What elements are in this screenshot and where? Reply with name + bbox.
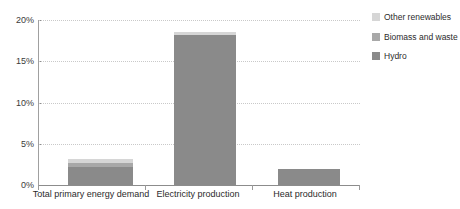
legend-label: Hydro bbox=[384, 52, 407, 61]
x-axis-label-total-primary-energy-demand: Total primary energy demand bbox=[33, 189, 150, 199]
x-axis-label-heat-production: Heat production bbox=[273, 189, 337, 199]
legend-item-hydro[interactable]: Hydro bbox=[372, 52, 460, 61]
y-tick-label: 5% bbox=[2, 139, 34, 149]
bar-electricity-production[interactable] bbox=[174, 32, 236, 185]
x-axis-label-electricity-production: Electricity production bbox=[156, 189, 239, 199]
legend-swatch-icon bbox=[372, 13, 380, 21]
x-axis-separator bbox=[252, 185, 253, 190]
y-tick-label: 0% bbox=[2, 180, 34, 190]
chart-legend: Other renewables Biomass and waste Hydro bbox=[372, 13, 460, 72]
legend-label: Other renewables bbox=[384, 13, 451, 22]
bar-heat-production[interactable] bbox=[278, 169, 340, 185]
legend-label: Biomass and waste bbox=[384, 33, 458, 42]
chart-container: 20% 15% 10% 5% 0% bbox=[0, 0, 460, 209]
bar-segment-hydro bbox=[68, 167, 133, 185]
legend-item-other-renewables[interactable]: Other renewables bbox=[372, 13, 460, 22]
legend-swatch-icon bbox=[372, 33, 380, 41]
y-tick-label: 20% bbox=[2, 15, 34, 25]
x-axis-separator bbox=[359, 185, 360, 190]
gridline bbox=[38, 20, 360, 21]
bar-segment-hydro bbox=[278, 169, 340, 185]
bar-total-primary-energy-demand[interactable] bbox=[68, 159, 133, 185]
x-axis-line bbox=[38, 185, 360, 186]
legend-swatch-icon bbox=[372, 52, 380, 60]
plot-area bbox=[38, 20, 360, 185]
bar-segment-hydro bbox=[174, 35, 236, 185]
legend-item-biomass-and-waste[interactable]: Biomass and waste bbox=[372, 33, 460, 42]
y-tick-label: 10% bbox=[2, 98, 34, 108]
y-tick-label: 15% bbox=[2, 56, 34, 66]
y-axis-line bbox=[38, 20, 39, 185]
y-axis-labels: 20% 15% 10% 5% 0% bbox=[0, 20, 34, 185]
